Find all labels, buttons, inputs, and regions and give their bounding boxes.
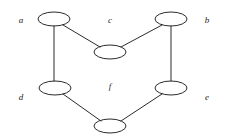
edge-a-c [63,25,100,47]
node-ellipse-f[interactable] [94,119,126,133]
node-ellipse-b[interactable] [155,12,187,26]
node-label-a: a [19,15,24,25]
edge-d-f [63,94,101,121]
edge-c-b [121,25,162,47]
node-label-d: d [19,92,24,102]
diagram-canvas: abcdef [0,0,228,138]
node-label-e: e [205,92,209,102]
node-ellipse-c[interactable] [94,45,126,59]
node-ellipse-a[interactable] [38,12,70,26]
edge-f-e [121,94,162,121]
node-label-c: c [108,15,112,25]
graph-svg: abcdef [0,0,228,138]
node-ellipse-e[interactable] [155,81,187,95]
node-ellipse-d[interactable] [39,81,71,95]
edges-group [54,25,171,121]
nodes-group [38,12,187,133]
node-label-b: b [205,15,210,25]
node-label-f: f [109,81,113,91]
